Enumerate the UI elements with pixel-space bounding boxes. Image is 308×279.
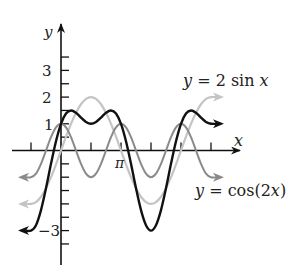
y-tick-label-2: 2 (42, 89, 52, 107)
y-tick-label-3: 3 (42, 62, 52, 80)
y-axis-label: y (43, 23, 53, 41)
x-axis-label: x (234, 131, 243, 150)
sin-label-x: x (260, 71, 269, 90)
cos-label-eq: = cos(2 (204, 181, 271, 200)
sin-label-eq: = 2 sin (192, 71, 260, 90)
y-tick-label-neg3: −3 (38, 222, 60, 240)
cos-label-x: x (271, 181, 280, 200)
cos-curve-label: y = cos(2x) (194, 181, 286, 200)
y-tick-label-1: 1 (44, 116, 54, 134)
cos-label-close: ) (280, 181, 286, 200)
graph-canvas: y x π 3 2 1 −3 y = 2 sin x y = cos(2x) (0, 0, 308, 279)
sin-curve-label: y = 2 sin x (182, 71, 269, 90)
pi-tick-label: π (114, 155, 125, 171)
